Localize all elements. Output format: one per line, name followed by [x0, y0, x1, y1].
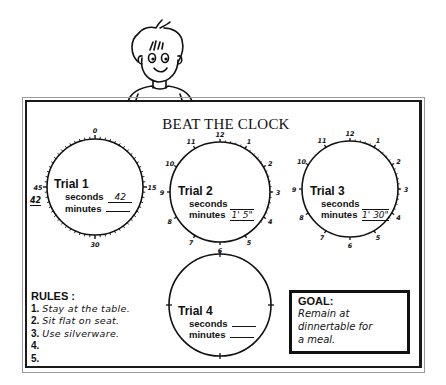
trial-1-minutes-field[interactable]: [106, 211, 130, 212]
trial-1-label: Trial 1: [54, 178, 132, 191]
rule-item: 3. Use silverware.: [31, 328, 130, 341]
trial-2-minutes-field[interactable]: 1' 5": [230, 209, 254, 221]
trial-4-seconds-row: seconds: [189, 318, 256, 329]
goal-box: GOAL: Remain at dinnertable for a meal.: [289, 290, 410, 354]
seconds-label: seconds: [321, 198, 360, 209]
trial-2-label: Trial 2: [178, 185, 256, 198]
goal-title: GOAL:: [298, 295, 401, 307]
seconds-label: seconds: [189, 198, 228, 209]
trial-1-seconds-field[interactable]: 42: [108, 192, 132, 203]
goal-line: dinnertable for: [298, 320, 401, 333]
seconds-label: seconds: [189, 318, 228, 329]
trial-3-minutes-row: minutes 1' 30": [321, 209, 389, 221]
goal-line: Remain at: [298, 307, 401, 320]
trial-4-minutes-field[interactable]: [230, 337, 254, 338]
trial-2-seconds-row: seconds: [189, 198, 256, 209]
rule-item: 5.: [31, 353, 130, 366]
rules-list: RULES : 1. Stay at the table. 2. Sit fla…: [31, 290, 130, 365]
minutes-label: minutes: [189, 209, 225, 220]
seconds-label: seconds: [65, 191, 104, 202]
minutes-label: minutes: [65, 203, 101, 214]
trial-4-label: Trial 4: [178, 305, 256, 318]
trial-4-minutes-row: minutes: [189, 329, 256, 340]
trial-3: Trial 3 seconds minutes 1' 30": [310, 185, 389, 221]
trial-4-seconds-field[interactable]: [232, 326, 256, 327]
trial-2: Trial 2 seconds minutes 1' 5": [178, 185, 256, 221]
trial-3-minutes-field[interactable]: 1' 30": [362, 209, 389, 221]
trial-2-minutes-row: minutes 1' 5": [189, 209, 256, 221]
rule-item: 1. Stay at the table.: [31, 303, 130, 316]
trial-3-seconds-row: seconds: [321, 198, 389, 209]
rule-text[interactable]: Stay at the table.: [42, 303, 130, 314]
rules-title: RULES :: [31, 290, 130, 303]
trial-1-seconds-row: seconds 42: [65, 191, 132, 203]
rule-item: 2. Sit flat on seat.: [31, 315, 130, 328]
cartoon-boy-illustration: [120, 18, 200, 102]
rule-text[interactable]: Use silverware.: [42, 328, 119, 339]
trial-1-minutes-row: minutes: [65, 203, 132, 214]
goal-line: a meal.: [298, 333, 401, 346]
rule-text[interactable]: Sit flat on seat.: [42, 315, 119, 326]
page-title: BEAT THE CLOCK: [0, 116, 446, 133]
minutes-label: minutes: [321, 209, 357, 220]
trial-4: Trial 4 seconds minutes: [178, 305, 256, 340]
trial-1: Trial 1 seconds 42 minutes: [54, 178, 132, 214]
rule-item: 4.: [31, 340, 130, 353]
trial-3-label: Trial 3: [310, 185, 389, 198]
trial-1-annotation: 42: [30, 196, 41, 206]
minutes-label: minutes: [189, 329, 225, 340]
